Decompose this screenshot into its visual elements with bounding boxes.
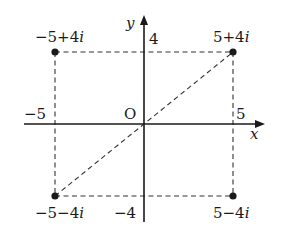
label-top-left: −5+4i [35, 28, 84, 46]
complex-plane-diagram: y x O −5 5 4 −4 −5+4i 5+4i −5−4i 5−4i [0, 0, 281, 235]
point-top-right [229, 48, 236, 55]
tick-x-pos-5: 5 [236, 105, 246, 123]
point-top-left [51, 48, 58, 55]
label-top-right: 5+4i [213, 28, 250, 46]
origin-label: O [124, 105, 136, 123]
label-bottom-left: −5−4i [35, 204, 84, 222]
point-bottom-left [51, 192, 58, 199]
tick-y-neg-4: −4 [114, 204, 136, 222]
tick-y-pos-4: 4 [149, 30, 159, 48]
y-axis-label: y [125, 14, 135, 32]
x-axis-label: x [250, 125, 259, 143]
label-bottom-right: 5−4i [213, 204, 250, 222]
tick-x-neg-5: −5 [24, 105, 46, 123]
point-bottom-right [229, 192, 236, 199]
